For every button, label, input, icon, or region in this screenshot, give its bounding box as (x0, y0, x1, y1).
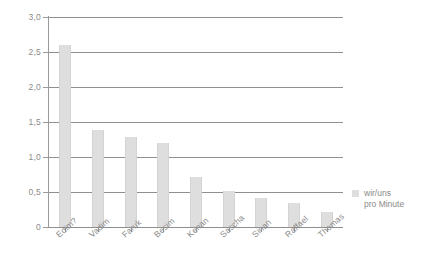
y-axis-tick-label-wrap: 1,0 (0, 152, 41, 163)
chart-legend: wir/uns pro Minute (352, 188, 404, 210)
y-axis-tick-label: 0,5 (5, 187, 41, 197)
bar (125, 137, 137, 227)
y-axis-tick-label-wrap: 0 (0, 222, 41, 233)
bars-group (49, 17, 343, 227)
bar (157, 143, 169, 227)
legend-label-line1: wir/uns (364, 188, 391, 198)
y-axis-tick (43, 227, 49, 228)
y-axis-tick-label: 3,0 (5, 12, 41, 22)
legend-label: wir/uns pro Minute (364, 188, 404, 210)
y-axis-tick-label-wrap: 3,0 (0, 12, 41, 23)
y-axis-tick-label: 0 (5, 222, 41, 232)
y-axis-tick-label-wrap: 1,5 (0, 117, 41, 128)
bar (59, 45, 71, 227)
y-axis-tick-label: 2,0 (5, 82, 41, 92)
y-axis-tick-label: 1,5 (5, 117, 41, 127)
y-axis-tick-label: 1,0 (5, 152, 41, 162)
bar (92, 130, 104, 227)
y-axis-tick-label-wrap: 2,0 (0, 82, 41, 93)
y-axis-tick-label: 2,5 (5, 47, 41, 57)
legend-label-line2: pro Minute (364, 199, 404, 209)
bar-chart: 00,51,01,52,02,53,0 Edim?VadimFarukBesim… (0, 0, 430, 263)
y-axis-tick-label-wrap: 2,5 (0, 47, 41, 58)
y-axis-tick-label-wrap: 0,5 (0, 187, 41, 198)
legend-swatch-icon (352, 190, 359, 197)
